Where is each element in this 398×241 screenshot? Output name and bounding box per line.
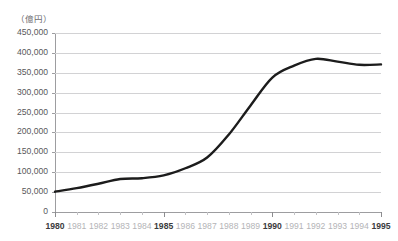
line-chart: （億円） 050,000100,000150,000200,000250,000… <box>0 0 398 241</box>
series-line <box>0 0 398 241</box>
series-path <box>55 59 381 192</box>
